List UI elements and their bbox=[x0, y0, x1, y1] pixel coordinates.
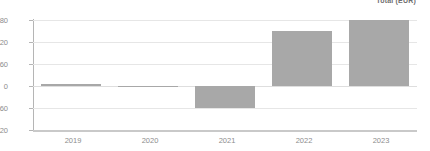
chart-legend: Total (EUR) bbox=[376, 0, 416, 5]
bar-2021 bbox=[195, 86, 255, 108]
y-tick-label-neg120: -120 bbox=[0, 126, 8, 135]
bar-2020 bbox=[118, 86, 178, 87]
x-tick-label-2023: 2023 bbox=[351, 136, 411, 145]
x-tick-label-2020: 2020 bbox=[120, 136, 180, 145]
y-tick-label-60: 60 bbox=[0, 60, 8, 69]
plot-area bbox=[33, 20, 417, 130]
y-tick-label-0: 0 bbox=[0, 82, 8, 91]
y-tick-label-neg60: -60 bbox=[0, 104, 8, 113]
bar-chart: Total (EUR) 180 120 60 0 -60 -120 2019 2… bbox=[0, 0, 430, 151]
x-tick-label-2019: 2019 bbox=[43, 136, 103, 145]
legend-label: Total (EUR) bbox=[376, 0, 416, 5]
gridline-neg60 bbox=[33, 108, 417, 109]
bar-2019 bbox=[41, 84, 101, 86]
x-tick-label-2021: 2021 bbox=[197, 136, 257, 145]
x-axis-line bbox=[33, 131, 417, 132]
x-tick-label-2022: 2022 bbox=[274, 136, 334, 145]
y-tick-label-180: 180 bbox=[0, 16, 8, 25]
y-tick-label-120: 120 bbox=[0, 38, 8, 47]
bar-2022 bbox=[272, 31, 332, 86]
bar-2023 bbox=[349, 20, 409, 86]
